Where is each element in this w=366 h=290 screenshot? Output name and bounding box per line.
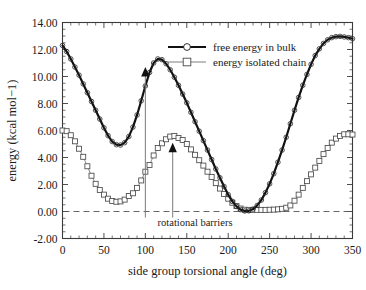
rotational-barrier-arrowhead xyxy=(169,143,177,153)
data-point-energy-isolated-chain xyxy=(184,142,189,147)
data-point-energy-isolated-chain xyxy=(188,147,193,152)
x-tick-label: 150 xyxy=(178,244,196,256)
series-line-free-energy-in-bulk xyxy=(63,36,353,211)
data-point-energy-isolated-chain xyxy=(130,191,135,196)
data-point-energy-isolated-chain xyxy=(81,154,86,159)
legend-marker-square xyxy=(183,58,191,66)
legend-marker-circle xyxy=(184,44,191,51)
data-point-energy-isolated-chain xyxy=(213,181,218,186)
energy-torsion-plot: 050100150200250300350-2.000.002.004.006.… xyxy=(0,0,366,290)
data-point-energy-isolated-chain xyxy=(155,146,160,151)
y-tick-label: 8.00 xyxy=(37,98,57,110)
data-point-energy-isolated-chain xyxy=(325,146,330,151)
data-point-energy-isolated-chain xyxy=(209,175,214,180)
y-tick-label: -2.00 xyxy=(34,233,58,245)
data-point-energy-isolated-chain xyxy=(151,153,156,158)
x-tick-label: 200 xyxy=(220,244,238,256)
x-axis-title: side group torsional angle (deg) xyxy=(128,264,287,278)
x-tick-label: 50 xyxy=(98,244,110,256)
data-point-energy-isolated-chain xyxy=(317,158,322,163)
data-point-energy-isolated-chain xyxy=(201,163,206,168)
chart-figure: 050100150200250300350-2.000.002.004.006.… xyxy=(0,0,366,290)
data-point-energy-isolated-chain xyxy=(72,139,77,144)
data-point-energy-isolated-chain xyxy=(93,181,98,186)
data-point-energy-isolated-chain xyxy=(313,165,318,170)
data-point-energy-isolated-chain xyxy=(292,198,297,203)
data-point-energy-isolated-chain xyxy=(97,187,102,192)
y-tick-label: 4.00 xyxy=(37,152,57,164)
data-point-energy-isolated-chain xyxy=(321,152,326,157)
data-point-energy-isolated-chain xyxy=(89,173,94,178)
data-point-energy-isolated-chain xyxy=(85,164,90,169)
x-tick-label: 250 xyxy=(261,244,279,256)
legend-label-free-energy-in-bulk: free energy in bulk xyxy=(213,41,297,53)
data-point-energy-isolated-chain xyxy=(197,158,202,163)
rotational-barrier-arrowhead xyxy=(141,67,149,77)
x-tick-label: 300 xyxy=(302,244,320,256)
data-point-energy-isolated-chain xyxy=(193,152,198,157)
rotational-barriers-annotation: rotational barriers xyxy=(158,217,233,228)
legend-label-energy-isolated-chain: energy isolated chain xyxy=(213,56,307,68)
y-tick-label: 14.00 xyxy=(32,17,58,29)
data-point-energy-isolated-chain xyxy=(350,132,355,137)
x-tick-label: 350 xyxy=(344,244,362,256)
y-tick-label: 0.00 xyxy=(37,206,57,218)
y-axis-title: energy (kcal mol−1) xyxy=(5,80,19,182)
x-tick-label: 0 xyxy=(60,244,66,256)
data-point-energy-isolated-chain xyxy=(139,178,144,183)
data-point-energy-isolated-chain xyxy=(77,146,82,151)
y-tick-label: 10.00 xyxy=(32,71,58,83)
y-tick-label: 2.00 xyxy=(37,179,57,191)
data-point-energy-isolated-chain xyxy=(288,203,293,208)
data-point-energy-isolated-chain xyxy=(300,185,305,190)
data-point-energy-isolated-chain xyxy=(147,162,152,167)
data-point-energy-isolated-chain xyxy=(205,169,210,174)
data-point-energy-isolated-chain xyxy=(135,185,140,190)
y-tick-label: 6.00 xyxy=(37,125,57,137)
x-tick-label: 100 xyxy=(137,244,155,256)
data-point-energy-isolated-chain xyxy=(304,179,309,184)
y-tick-label: 12.00 xyxy=(32,44,58,56)
data-point-energy-isolated-chain xyxy=(309,172,314,177)
data-point-energy-isolated-chain xyxy=(296,192,301,197)
data-point-energy-isolated-chain xyxy=(68,133,73,138)
